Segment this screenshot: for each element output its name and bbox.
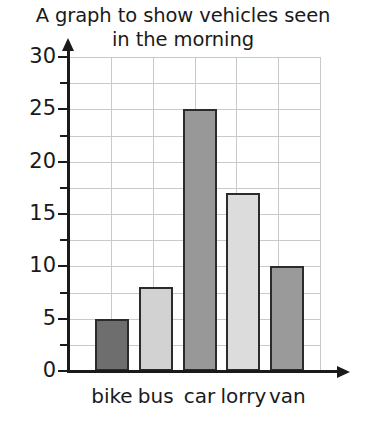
y-axis-tick-minor bbox=[60, 135, 68, 137]
y-axis-line bbox=[67, 48, 70, 373]
y-axis-tick-major bbox=[58, 108, 68, 110]
bar-lorry bbox=[226, 193, 260, 371]
y-axis-tick-label: 0 bbox=[0, 360, 56, 381]
x-axis-line bbox=[67, 370, 339, 373]
y-axis-tick-label: 20 bbox=[0, 151, 56, 172]
x-axis-label-van: van bbox=[237, 383, 337, 409]
y-axis-tick-minor bbox=[60, 82, 68, 84]
y-axis-tick-label: 5 bbox=[0, 308, 56, 329]
y-axis-tick-minor bbox=[60, 344, 68, 346]
bar-van bbox=[270, 266, 304, 371]
x-axis-arrowhead bbox=[337, 366, 350, 378]
y-axis-tick-major bbox=[58, 318, 68, 320]
y-axis-tick-major bbox=[58, 265, 68, 267]
y-axis-tick-major bbox=[58, 161, 68, 163]
y-axis-tick-label: 15 bbox=[0, 203, 56, 224]
y-axis-tick-minor bbox=[60, 187, 68, 189]
gridline-vertical bbox=[320, 57, 321, 371]
chart-title-line-1: A graph to show vehicles seen bbox=[0, 4, 366, 28]
y-axis-tick-label: 25 bbox=[0, 98, 56, 119]
bar-car bbox=[183, 109, 217, 371]
y-axis-tick-major bbox=[58, 56, 68, 58]
y-axis-tick-label: 30 bbox=[0, 46, 56, 67]
bar-chart-figure: A graph to show vehicles seen in the mor… bbox=[0, 0, 366, 423]
bar-bike bbox=[95, 319, 129, 371]
y-axis-tick-minor bbox=[60, 292, 68, 294]
y-axis-tick-major bbox=[58, 370, 68, 372]
y-axis-tick-minor bbox=[60, 239, 68, 241]
plot-area bbox=[69, 57, 320, 371]
y-axis-tick-major bbox=[58, 213, 68, 215]
x-axis-labels: bikebuscarlorryvan bbox=[0, 383, 366, 413]
y-axis-tick-label: 10 bbox=[0, 255, 56, 276]
bar-bus bbox=[139, 287, 173, 371]
y-axis-arrowhead bbox=[62, 38, 74, 51]
